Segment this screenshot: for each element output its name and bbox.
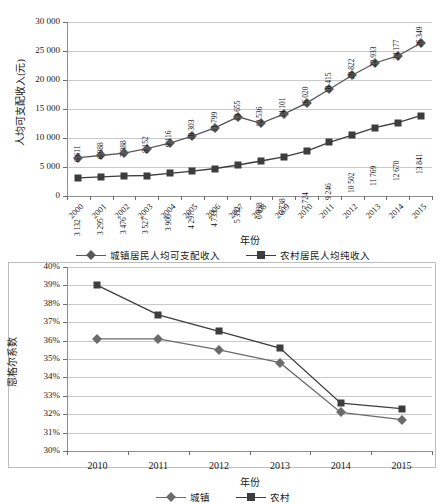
x-axis-title: 年份 xyxy=(67,474,432,489)
legend-label-2: 农村居民人均纯收入 xyxy=(280,248,370,262)
data-point-2-8 xyxy=(257,157,264,164)
chart-legend: 城镇居民人均可支配收入农村居民人均纯收入 xyxy=(0,248,445,262)
data-label: 13 841 xyxy=(416,153,424,174)
x-axis-title: 年份 xyxy=(67,232,432,247)
data-point-2-2 xyxy=(216,328,223,335)
data-label: 4 733 xyxy=(211,210,219,227)
data-point-2-6 xyxy=(212,165,219,172)
data-label: 7 724 xyxy=(302,192,310,209)
data-point-2-1 xyxy=(155,311,162,318)
data-label: 26 349 xyxy=(416,27,424,48)
data-point-2-4 xyxy=(337,400,344,407)
data-label: 22 933 xyxy=(370,46,378,67)
data-label: 24 177 xyxy=(393,39,401,60)
data-label: 12 536 xyxy=(256,107,264,128)
data-point-2-12 xyxy=(349,132,356,139)
y-axis-title: 恩格尔系数 xyxy=(4,337,19,387)
square-icon xyxy=(257,251,265,259)
data-point-2-7 xyxy=(235,161,242,168)
data-point-2-4 xyxy=(166,170,173,177)
data-label: 10 502 xyxy=(348,172,356,193)
data-label: 16 020 xyxy=(302,86,310,107)
y-axis-title: 人均可支配收入(元) xyxy=(12,59,27,146)
series-line-2 xyxy=(97,285,401,408)
data-point-2-13 xyxy=(371,124,378,131)
data-label: 3 527 xyxy=(142,217,150,234)
data-label: 5 352 xyxy=(234,206,242,223)
data-point-2-0 xyxy=(75,174,82,181)
legend-swatch-square xyxy=(246,251,276,260)
data-point-2-5 xyxy=(398,405,405,412)
chart-legend: 城镇农村 xyxy=(0,490,445,504)
legend-item-2: 农村居民人均纯收入 xyxy=(246,248,370,262)
legend-item-1: 城镇 xyxy=(156,490,210,504)
data-point-2-11 xyxy=(326,139,333,146)
data-point-2-2 xyxy=(121,172,128,179)
data-point-2-5 xyxy=(189,168,196,175)
data-point-2-14 xyxy=(394,119,401,126)
data-label: 18 415 xyxy=(325,73,333,94)
legend-item-2: 农村 xyxy=(236,490,290,504)
legend-label-1: 城镇 xyxy=(190,490,210,504)
data-label: 11 799 xyxy=(211,111,219,131)
data-label: 9 246 xyxy=(325,183,333,200)
data-point-2-0 xyxy=(94,282,101,289)
legend-label-1: 城镇居民人均可支配收入 xyxy=(110,248,220,262)
data-label: 7 388 xyxy=(120,140,128,157)
data-label: 6 611 xyxy=(74,145,82,162)
diamond-icon xyxy=(166,492,176,502)
data-label: 6 988 xyxy=(97,143,105,160)
data-label: 3 906 xyxy=(165,214,173,231)
series-lines xyxy=(0,262,445,504)
data-label: 10 303 xyxy=(188,120,196,141)
data-point-2-9 xyxy=(280,153,287,160)
data-point-2-15 xyxy=(417,112,424,119)
square-icon xyxy=(247,493,255,501)
data-point-2-3 xyxy=(143,172,150,179)
legend-label-2: 农村 xyxy=(270,490,290,504)
data-label: 9 116 xyxy=(165,131,173,148)
data-label: 20 822 xyxy=(348,59,356,80)
data-label: 6 038 xyxy=(256,202,264,219)
data-label: 8 152 xyxy=(142,136,150,153)
data-label: 14 101 xyxy=(279,98,287,119)
data-label: 6 738 xyxy=(279,198,287,215)
legend-swatch-diamond xyxy=(76,251,106,260)
data-point-2-10 xyxy=(303,148,310,155)
data-label: 12 670 xyxy=(393,160,401,181)
data-point-2-3 xyxy=(276,344,283,351)
series-line-1 xyxy=(97,339,401,420)
legend-swatch-square xyxy=(236,493,266,502)
diamond-icon xyxy=(86,250,96,260)
data-point-2-1 xyxy=(98,173,105,180)
engel-chart: 30%31%32%33%34%35%36%37%38%39%40%2010201… xyxy=(0,262,445,504)
data-label: 13 655 xyxy=(234,100,242,121)
data-label: 4 297 xyxy=(188,212,196,229)
income-chart: 05 00010 00015 00020 00025 00030 0002000… xyxy=(0,0,445,262)
legend-item-1: 城镇居民人均可支配收入 xyxy=(76,248,220,262)
legend-swatch-diamond xyxy=(156,493,186,502)
data-label: 11 769 xyxy=(370,165,378,185)
